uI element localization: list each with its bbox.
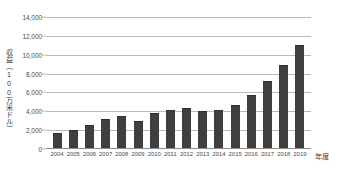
bar-2007 (101, 119, 110, 148)
bar-2010 (150, 113, 159, 148)
bar-slot (179, 17, 195, 148)
y-axis-tick-label: 0 (4, 146, 42, 153)
x-axis-tick-label: 2018 (276, 151, 292, 163)
x-axis-title: 年度 (315, 151, 329, 161)
x-axis-tick-label: 2019 (292, 151, 308, 163)
bar-slot (276, 17, 292, 148)
bar-slot (81, 17, 97, 148)
bar-2017 (263, 81, 272, 148)
x-axis-tick-label: 2015 (227, 151, 243, 163)
bar-slot (211, 17, 227, 148)
bar-series (46, 17, 311, 148)
bar-2019 (295, 45, 304, 148)
x-axis-tick-label: 2006 (81, 151, 97, 163)
bar-2004 (53, 133, 62, 148)
bar-slot (292, 17, 308, 148)
bar-2009 (134, 121, 143, 148)
y-axis-tick-label: 14,000 (4, 14, 42, 21)
x-axis-tick-label: 2017 (259, 151, 275, 163)
x-axis-tick-label: 2013 (195, 151, 211, 163)
bar-2005 (69, 130, 78, 148)
x-axis-tick-label: 2005 (65, 151, 81, 163)
bar-2016 (247, 95, 256, 148)
bar-slot (130, 17, 146, 148)
x-axis-line (46, 148, 311, 149)
bar-slot (114, 17, 130, 148)
x-axis-tick-label: 2011 (162, 151, 178, 163)
x-axis-tick-label: 2009 (130, 151, 146, 163)
y-axis-tick-label: 12,000 (4, 32, 42, 39)
bar-2006 (85, 125, 94, 148)
y-axis-tick-label: 8,000 (4, 70, 42, 77)
x-axis-tick-label: 2014 (211, 151, 227, 163)
x-axis-tick-label: 2008 (114, 151, 130, 163)
bar-2018 (279, 65, 288, 148)
x-axis-tick-label: 2012 (179, 151, 195, 163)
x-axis-tick-label: 2004 (49, 151, 65, 163)
bar-2013 (198, 111, 207, 148)
plot-area (46, 17, 311, 149)
bar-slot (227, 17, 243, 148)
bar-slot (195, 17, 211, 148)
y-axis-tick-label: 6,000 (4, 89, 42, 96)
bar-slot (98, 17, 114, 148)
y-axis-tick-label: 2,000 (4, 127, 42, 134)
bar-slot (146, 17, 162, 148)
x-axis-tick-labels: 2004200520062007200820092010201120122013… (46, 151, 311, 163)
bar-slot (49, 17, 65, 148)
x-axis-tick-label: 2016 (243, 151, 259, 163)
bar-chart: 収益（100万米ドル） 02,0004,0006,0008,00010,0001… (0, 0, 340, 181)
bar-2014 (214, 110, 223, 148)
x-axis-tick-label: 2007 (98, 151, 114, 163)
bar-2011 (166, 110, 175, 148)
y-axis-tick-label: 10,000 (4, 51, 42, 58)
bar-slot (243, 17, 259, 148)
x-axis-tick-label: 2010 (146, 151, 162, 163)
bar-2012 (182, 108, 191, 148)
bar-2008 (117, 116, 126, 148)
bar-slot (65, 17, 81, 148)
y-axis-tick-label: 4,000 (4, 108, 42, 115)
bar-2015 (231, 105, 240, 149)
bar-slot (162, 17, 178, 148)
bar-slot (259, 17, 275, 148)
